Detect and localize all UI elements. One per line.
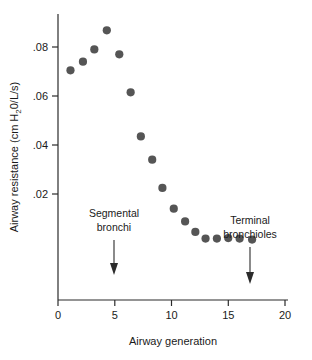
axes-group — [58, 14, 288, 300]
x-tick-label-15: 15 — [222, 309, 234, 321]
data-point — [181, 217, 189, 225]
x-tick-marks — [58, 300, 285, 306]
y-axis-title-group: Airway resistance (cm H20/L/s) — [8, 82, 23, 233]
data-point — [66, 66, 74, 74]
x-tick-label-0: 0 — [55, 309, 61, 321]
data-point — [201, 234, 209, 242]
annotation-terminal-bronchioles-line2: bronchioles — [223, 228, 277, 240]
data-point — [90, 45, 98, 53]
data-point — [158, 184, 166, 192]
x-tick-label-20: 20 — [279, 309, 291, 321]
data-point — [103, 26, 111, 34]
data-point — [137, 132, 145, 140]
x-tick-label-10: 10 — [165, 309, 177, 321]
annotation-terminal-bronchioles-arrow-head — [246, 272, 254, 284]
y-tick-label-04: .04 — [33, 139, 48, 151]
annotation-segmental-bronchi-arrow-head — [110, 263, 118, 275]
y-tick-marks — [52, 47, 58, 194]
y-tick-label-06: .06 — [33, 90, 48, 102]
annotation-terminal-bronchioles: Terminal bronchioles — [223, 214, 277, 284]
y-axis-title-after: 0/L/s) — [8, 82, 20, 110]
data-point — [79, 58, 87, 66]
x-axis-title: Airway generation — [129, 335, 217, 347]
data-point — [127, 88, 135, 96]
data-point — [191, 228, 199, 236]
plot-canvas: .08 .06 .04 .02 0 5 10 15 20 Segmental b… — [0, 0, 312, 360]
y-tick-label-08: .08 — [33, 41, 48, 53]
y-tick-label-02: .02 — [33, 188, 48, 200]
x-tick-labels: 0 5 10 15 20 — [55, 309, 291, 321]
scatter-plot-figure: .08 .06 .04 .02 0 5 10 15 20 Segmental b… — [0, 0, 312, 360]
y-axis-title: Airway resistance (cm H20/L/s) — [8, 82, 23, 233]
data-point — [115, 50, 123, 58]
annotation-segmental-bronchi-line2: bronchi — [97, 221, 131, 233]
annotation-terminal-bronchioles-line1: Terminal — [230, 214, 270, 226]
y-tick-labels: .08 .06 .04 .02 — [33, 41, 48, 200]
annotation-segmental-bronchi: Segmental bronchi — [89, 207, 139, 275]
x-tick-label-5: 5 — [112, 309, 118, 321]
y-axis-title-before: Airway resistance (cm H — [8, 114, 20, 233]
data-point — [170, 205, 178, 213]
data-point — [213, 234, 221, 242]
annotation-segmental-bronchi-line1: Segmental — [89, 207, 139, 219]
data-point — [148, 156, 156, 164]
